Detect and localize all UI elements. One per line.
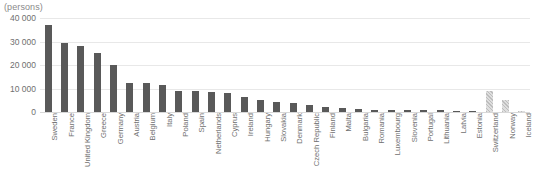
x-axis-tick-label: Norway [509,113,517,139]
bar[interactable] [143,83,150,112]
bar[interactable] [404,110,411,112]
bar[interactable] [175,91,182,112]
bar[interactable] [371,110,378,112]
y-axis-tick-labels: 010 00020 00030 00040 000 [0,18,36,112]
bar[interactable] [518,111,525,112]
x-axis-tick-label: Iceland [525,113,533,138]
x-axis-tick-label: Switzerland [492,113,500,152]
x-axis-tick-label: Czech Republic [313,113,321,166]
x-axis-tick-label: Lithuania [443,113,451,144]
bar[interactable] [241,97,248,112]
bar[interactable] [290,103,297,112]
x-axis-tick-label: Ireland [247,113,255,136]
bar[interactable] [61,43,68,112]
x-axis-tick-label: Slovenia [411,113,419,142]
bar-chart: (persons) 010 00020 00030 00040 000 Swed… [0,0,534,191]
bar[interactable] [273,102,280,112]
y-axis-tick-label: 40 000 [10,13,36,23]
x-axis-tick-label: Finland [329,113,337,138]
y-axis-tick-label: 0 [31,107,36,117]
bar[interactable] [355,109,362,112]
bar[interactable] [192,91,199,112]
x-axis-tick-label: Portugal [427,113,435,141]
x-axis-tick-label: Greece [100,113,108,138]
y-axis-tick-label: 10 000 [10,84,36,94]
bar[interactable] [224,93,231,113]
x-axis-tick-label: United Kingdom [84,113,92,167]
y-axis-tick-label: 20 000 [10,60,36,70]
x-axis-tick-label: Sweden [51,113,59,140]
x-axis-tick-label: Denmark [296,113,304,144]
bar[interactable] [126,83,133,112]
bar[interactable] [94,53,101,112]
bar[interactable] [502,100,509,112]
bar[interactable] [322,107,329,112]
bar[interactable] [45,25,52,112]
x-axis-tick-label: Luxembourg [394,113,402,155]
bar[interactable] [420,110,427,112]
y-axis-unit-label: (persons) [4,2,43,12]
bar[interactable] [77,46,84,112]
x-axis-tick-label: Romania [378,113,386,143]
x-axis-tick-label: Latvia [460,113,468,133]
bar[interactable] [388,110,395,112]
x-axis-tick-label: Slovakia [280,113,288,142]
bar[interactable] [437,110,444,112]
y-axis-tick-label: 30 000 [10,37,36,47]
x-axis-tick-label: Cyprus [231,113,239,137]
bar[interactable] [110,65,117,112]
bar[interactable] [469,111,476,112]
bars-layer [40,18,530,112]
x-axis-tick-label: Bulgaria [362,113,370,141]
x-axis-tick-label: Netherlands [215,113,223,154]
x-axis-tick-label: Spain [198,113,206,132]
bar[interactable] [486,91,493,112]
bar[interactable] [208,92,215,112]
x-axis-tick-label: Italy [166,113,174,127]
bar[interactable] [257,100,264,112]
plot-area [40,18,530,112]
x-axis-tick-label: Hungary [264,113,272,142]
x-axis-tick-label: Poland [182,113,190,137]
x-axis-tick-label: Estonia [476,113,484,138]
bar[interactable] [159,85,166,112]
x-axis-tick-label: Germany [117,113,125,144]
x-axis-tick-label: Austria [133,113,141,137]
x-axis-tick-label: Malta [345,113,353,132]
bar[interactable] [453,111,460,112]
x-axis-tick-label: Belgium [149,113,157,140]
x-axis-tick-labels: SwedenFranceUnited KingdomGreeceGermanyA… [40,113,530,191]
bar[interactable] [306,105,313,112]
bar[interactable] [339,108,346,112]
x-axis-tick-label: France [68,113,76,137]
